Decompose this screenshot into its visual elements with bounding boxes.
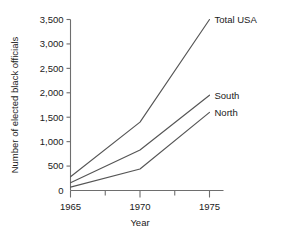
x-tick-label: 1965 xyxy=(60,201,81,212)
y-axis-title: Number of elected black officials xyxy=(9,36,20,173)
y-tick-label: 3,000 xyxy=(40,38,64,49)
line-chart: 05001,0001,5002,0002,5003,0003,500 19651… xyxy=(0,0,284,232)
chart-canvas: 05001,0001,5002,0002,5003,0003,500 19651… xyxy=(0,0,284,232)
series-label-south: South xyxy=(215,90,240,101)
series-label-north: North xyxy=(215,107,238,118)
y-tick-label: 3,500 xyxy=(40,14,64,25)
y-tick-label: 2,000 xyxy=(40,87,64,98)
x-axis-title: Year xyxy=(130,217,149,228)
y-tick-label: 1,000 xyxy=(40,136,64,147)
series-label-total-usa: Total USA xyxy=(215,14,258,25)
x-tick-label: 1975 xyxy=(199,201,220,212)
y-tick-label: 2,500 xyxy=(40,63,64,74)
y-tick-label: 1,500 xyxy=(40,112,64,123)
y-tick-label: 0 xyxy=(58,185,63,196)
x-tick-label: 1970 xyxy=(129,201,150,212)
y-tick-label: 500 xyxy=(48,160,64,171)
